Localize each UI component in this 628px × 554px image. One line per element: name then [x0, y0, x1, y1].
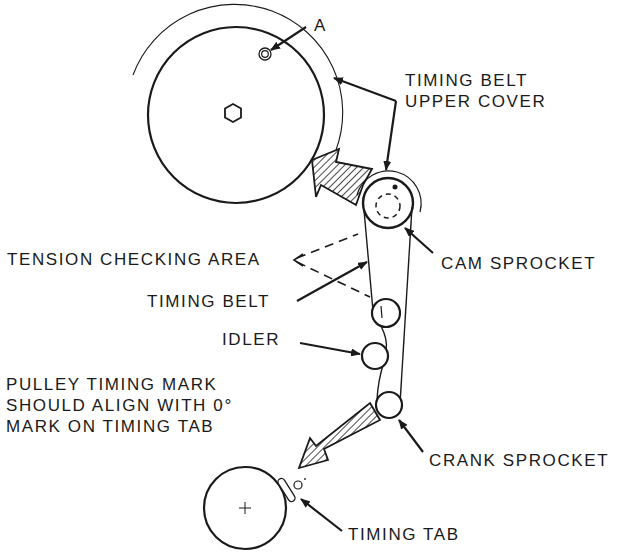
upper-cover-pointer	[334, 78, 396, 101]
idler	[362, 343, 388, 369]
hex-bolt-icon	[225, 104, 241, 122]
arrow-a	[271, 27, 306, 50]
tension-area-bracket	[294, 254, 303, 266]
label-timing-belt: TIMING BELT	[147, 291, 270, 312]
mark-a-outer	[259, 48, 271, 60]
label-upper-cover-line1: TIMING BELT	[405, 70, 546, 91]
arrow-crank-sprocket	[399, 420, 423, 452]
rotation-arrow-lower	[299, 403, 380, 468]
label-crank-sprocket: CRANK SPROCKET	[429, 450, 609, 471]
label-upper-cover-line2: UPPER COVER	[405, 91, 546, 112]
arrow-timing-belt	[297, 262, 367, 301]
label-tension-area: TENSION CHECKING AREA	[7, 249, 261, 270]
crank-sprocket	[376, 392, 402, 418]
arrow-idler	[300, 343, 360, 354]
upper-cover-pointer-down	[386, 101, 396, 170]
upper-idler	[372, 299, 400, 327]
crank-pulley	[204, 467, 286, 549]
label-idler: IDLER	[222, 329, 280, 350]
label-pulley-note: PULLEY TIMING MARK SHOULD ALIGN WITH 0° …	[6, 374, 233, 437]
label-pulley-note-line2: SHOULD ALIGN WITH 0°	[6, 395, 233, 416]
label-pulley-note-line1: PULLEY TIMING MARK	[6, 374, 233, 395]
label-cam-sprocket: CAM SPROCKET	[441, 253, 596, 274]
label-point-a: A	[314, 15, 327, 36]
label-pulley-note-line3: MARK ON TIMING TAB	[6, 416, 233, 437]
label-upper-cover: TIMING BELT UPPER COVER	[405, 70, 546, 112]
label-timing-tab: TIMING TAB	[348, 524, 460, 545]
large-upper-pulley	[148, 27, 324, 203]
arrow-timing-tab	[301, 499, 342, 531]
mark-a-inner	[262, 51, 269, 58]
